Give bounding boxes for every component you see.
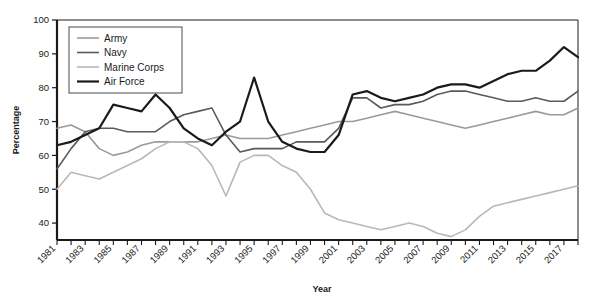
y-tick-label: 80 (38, 82, 49, 93)
y-tick-label: 70 (38, 116, 49, 127)
x-tick-label: 1991 (175, 243, 198, 266)
x-tick-label: 2007 (401, 243, 424, 266)
x-tick-label: 2003 (344, 243, 367, 266)
legend-label-marine-corps: Marine Corps (104, 62, 164, 73)
legend-label-air-force: Air Force (104, 76, 145, 87)
x-tick-label: 2015 (513, 243, 536, 266)
series-line-navy (57, 91, 578, 169)
chart-canvas: Percentage Year 405060708090100 19811983… (0, 0, 598, 304)
y-tick-label: 90 (38, 48, 49, 59)
x-tick-label: 1983 (63, 243, 86, 266)
x-tick-label: 1993 (204, 243, 227, 266)
x-axis-ticks: 1981198319851987198919911993199519971999… (35, 240, 578, 265)
y-tick-label: 60 (38, 150, 49, 161)
x-axis-title: Year (312, 284, 332, 294)
legend-label-army: Army (104, 33, 127, 44)
series-line-marine-corps (57, 142, 578, 237)
x-tick-label: 1995 (232, 243, 255, 266)
x-tick-label: 2009 (429, 243, 452, 266)
y-axis-ticks: 405060708090100 (33, 14, 57, 228)
y-tick-label: 100 (33, 14, 49, 25)
x-tick-label: 1987 (119, 243, 142, 266)
x-tick-label: 2017 (542, 243, 565, 266)
line-chart-figure: Percentage Year 405060708090100 19811983… (0, 0, 598, 304)
x-tick-label: 1999 (288, 243, 311, 266)
x-tick-label: 2013 (485, 243, 508, 266)
x-tick-label: 2011 (458, 243, 480, 265)
x-tick-label: 2005 (373, 243, 396, 266)
x-tick-label: 1981 (35, 243, 58, 266)
chart-legend: ArmyNavyMarine CorpsAir Force (69, 27, 182, 93)
legend-label-navy: Navy (104, 47, 127, 58)
y-axis-title: Percentage (11, 106, 21, 155)
x-tick-label: 1985 (91, 243, 114, 266)
x-tick-label: 1989 (147, 243, 170, 266)
y-tick-label: 40 (38, 217, 49, 228)
x-tick-label: 2001 (316, 243, 339, 266)
y-tick-label: 50 (38, 184, 49, 195)
x-tick-label: 1997 (260, 243, 283, 266)
